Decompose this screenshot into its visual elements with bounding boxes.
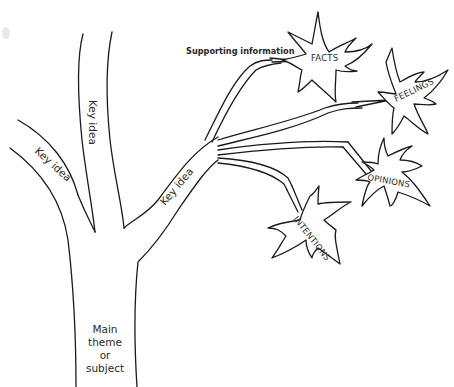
- main-theme-line-3: or: [100, 349, 111, 361]
- twig-facts-lower: [212, 63, 281, 142]
- twig-intentions-lower: [218, 163, 287, 190]
- key-idea-label-left: Key idea: [33, 145, 74, 184]
- key-idea-label-right: Key idea: [157, 165, 195, 207]
- twig-feelings-lower: [218, 108, 362, 146]
- leaf-intentions: [268, 186, 351, 264]
- supporting-information-label: Supporting information: [186, 46, 295, 56]
- center-branch-right-edge: [107, 32, 124, 228]
- twig-intentions-bend: [287, 186, 302, 212]
- trunk-left-edge: [10, 148, 76, 387]
- key-idea-label-center: Key idea: [87, 100, 99, 145]
- twig-feelings-upper: [218, 103, 358, 140]
- twig-opinions-bend: [343, 142, 372, 174]
- facts-label: FACTS: [311, 53, 338, 63]
- leaf-opinions: [356, 138, 430, 206]
- main-theme-label: Main theme or subject: [86, 323, 124, 374]
- scan-smudge: [2, 27, 10, 39]
- main-theme-line-4: subject: [86, 362, 124, 374]
- main-theme-line-2: theme: [88, 336, 122, 348]
- main-theme-line-1: Main: [92, 323, 117, 335]
- tree-diagram: Key idea Key idea Key idea Supporting in…: [0, 0, 454, 387]
